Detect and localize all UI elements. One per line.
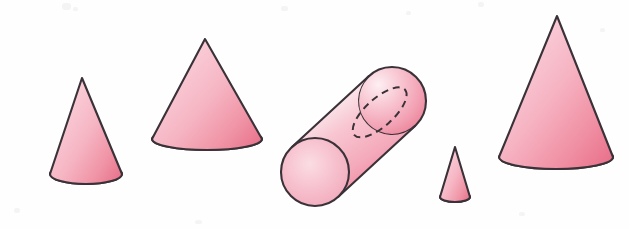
geometry-figure-canvas: [0, 0, 629, 229]
solids-illustration: [0, 0, 629, 229]
cylinder-near-cap: [281, 138, 349, 206]
